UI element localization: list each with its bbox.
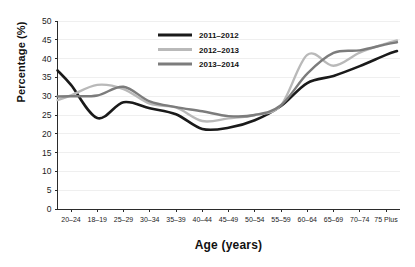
y-tick-label: 30	[42, 91, 52, 101]
x-tick-label: 30–34	[140, 216, 160, 223]
x-tick-label: 55–59	[271, 216, 291, 223]
legend-group: 2011–20122012–20132013–2014	[158, 31, 240, 69]
y-tick-label: 50	[42, 16, 52, 26]
y-tick-label: 15	[42, 148, 52, 158]
x-tick-label: 65–69	[324, 216, 344, 223]
x-tick-label: 18–19	[88, 216, 108, 223]
x-tick-label: 75 Plus	[374, 216, 398, 223]
x-tick-label: 20–24	[61, 216, 81, 223]
x-tick-label: 45–49	[219, 216, 239, 223]
y-tick-label: 0	[47, 204, 52, 214]
x-tick-label: 25–29	[114, 216, 134, 223]
x-tick-label: 40–44	[193, 216, 213, 223]
line-chart-plot: 05101520253035404550 20–2418–1925–2930–3…	[0, 0, 415, 267]
y-tick-labels-group: 05101520253035404550	[42, 16, 57, 214]
legend-label-3: 2013–2014	[199, 60, 240, 69]
y-tick-label: 10	[42, 166, 52, 176]
y-tick-label: 20	[42, 129, 52, 139]
y-tick-label: 35	[42, 72, 52, 82]
y-tick-label: 5	[47, 185, 52, 195]
legend-label-1: 2011–2012	[199, 31, 239, 40]
x-tick-label: 60–64	[298, 216, 318, 223]
x-tick-label: 70–74	[350, 216, 370, 223]
y-tick-label: 45	[42, 35, 52, 45]
x-tick-labels-group: 20–2418–1925–2930–3435–3940–4445–4950–54…	[61, 209, 398, 223]
chart-container: Percentage (%) Age (years) 0510152025303…	[0, 0, 415, 267]
x-tick-label: 50–54	[245, 216, 265, 223]
y-tick-label: 40	[42, 54, 52, 64]
y-tick-label: 25	[42, 110, 52, 120]
x-tick-label: 35–39	[166, 216, 186, 223]
legend-label-2: 2012–2013	[199, 46, 240, 55]
